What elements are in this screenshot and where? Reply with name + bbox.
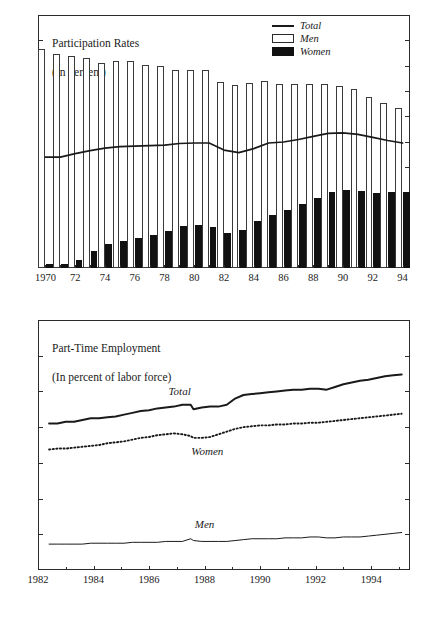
series-label-men: Men	[195, 518, 215, 530]
line-total	[49, 374, 402, 423]
series-label-total: Total	[168, 385, 190, 397]
series-label-women: Women	[191, 445, 223, 457]
line-total	[45, 133, 402, 157]
line-women	[49, 414, 402, 450]
total-line-participation	[0, 0, 427, 300]
participation-rates-chart: Participation Rates (In percent) Total M…	[0, 0, 427, 300]
part-time-employment-chart: Part-Time Employment (In percent of labo…	[0, 300, 427, 618]
series-lines-parttime	[0, 300, 427, 618]
line-men	[49, 533, 402, 545]
